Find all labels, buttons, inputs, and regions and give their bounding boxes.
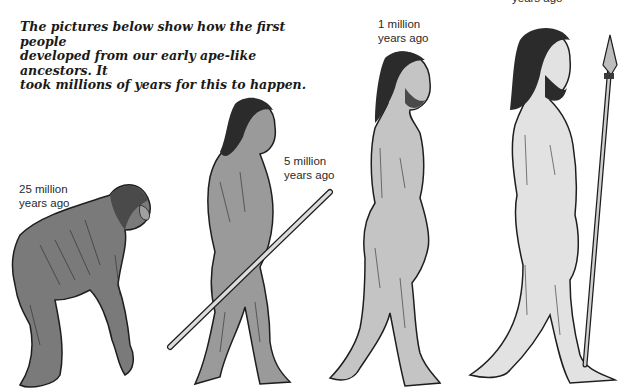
stage-label-top: years ago xyxy=(512,0,563,6)
intro-line-2: developed from our early ape-like ancest… xyxy=(20,48,256,78)
intro-line-3: took millions of years for this to happe… xyxy=(20,77,306,92)
modern-human-figure xyxy=(465,25,635,391)
stage-label-line2: years ago xyxy=(378,32,429,46)
intro-line-1: The pictures below show how the first pe… xyxy=(20,19,285,49)
intro-text: The pictures below show how the first pe… xyxy=(20,20,320,93)
stage-label-line2: years ago xyxy=(512,0,563,6)
upright-hominid-figure xyxy=(320,48,470,391)
stage-label-line1: 1 million xyxy=(378,18,429,32)
early-hominid-figure xyxy=(165,92,340,391)
ape-ancestor-figure xyxy=(0,175,165,391)
stage-label-1-million: 1 million years ago xyxy=(378,18,429,45)
